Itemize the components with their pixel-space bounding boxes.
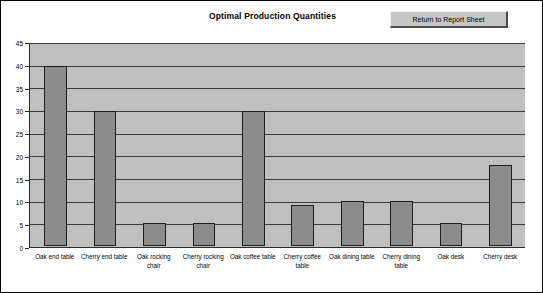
x-axis-label: Cherry desk: [476, 252, 526, 271]
x-axis-label: Oak rocking chair: [129, 252, 179, 271]
y-axis-tick-label: 35: [16, 85, 23, 92]
y-axis-tick: [25, 89, 29, 90]
bar[interactable]: [291, 205, 314, 246]
y-axis-tick-label: 0: [19, 245, 23, 252]
x-axis-label: Cherry dining table: [377, 252, 427, 271]
x-axis-label: Cherry coffee table: [278, 252, 328, 271]
bar[interactable]: [489, 165, 512, 246]
y-axis-tick: [25, 134, 29, 135]
y-axis-tick-label: 45: [16, 40, 23, 47]
y-axis-tick: [25, 202, 29, 203]
bar[interactable]: [440, 223, 463, 246]
y-axis-tick: [25, 180, 29, 181]
x-axis-label: Oak desk: [426, 252, 476, 271]
y-axis-tick-label: 15: [16, 176, 23, 183]
plot-area: [29, 43, 525, 248]
plot-area-wrapper: 051015202530354045: [29, 43, 525, 248]
x-axis-label: Oak dining table: [327, 252, 377, 271]
y-axis-tick: [25, 111, 29, 112]
y-axis-tick-label: 20: [16, 153, 23, 160]
bar[interactable]: [143, 223, 166, 246]
x-axis-label: Cherry rocking chair: [179, 252, 229, 271]
bar-slot: [229, 43, 278, 246]
bar-slot: [476, 43, 525, 246]
y-axis-tick-label: 40: [16, 62, 23, 69]
bar-slot: [179, 43, 228, 246]
y-axis-tick-label: 5: [19, 222, 23, 229]
bar-slot: [80, 43, 129, 246]
y-axis-tick: [25, 66, 29, 67]
bar-slot: [327, 43, 376, 246]
bar-slot: [278, 43, 327, 246]
x-axis-label: Oak coffee table: [228, 252, 278, 271]
x-axis-labels: Oak end tableCherry end tableOak rocking…: [30, 252, 525, 271]
y-axis-tick: [25, 43, 29, 44]
y-axis-tick: [25, 248, 29, 249]
bar[interactable]: [341, 201, 364, 246]
y-axis-tick-label: 30: [16, 108, 23, 115]
chart-container: Optimal Production Quantities Return to …: [0, 0, 543, 293]
bar-slot: [130, 43, 179, 246]
y-axis-tick: [25, 225, 29, 226]
bar[interactable]: [242, 111, 265, 246]
x-axis-label: Oak end table: [30, 252, 80, 271]
return-to-report-sheet-button[interactable]: Return to Report Sheet: [390, 11, 508, 28]
bar-slot: [31, 43, 80, 246]
bar-slot: [377, 43, 426, 246]
bar[interactable]: [390, 201, 413, 246]
bar[interactable]: [193, 223, 216, 246]
y-axis-tick-label: 10: [16, 199, 23, 206]
bars-group: [31, 43, 525, 246]
y-axis-tick-label: 25: [16, 131, 23, 138]
y-axis-tick: [25, 157, 29, 158]
bar[interactable]: [44, 66, 67, 246]
bar-slot: [426, 43, 475, 246]
x-axis-label: Cherry end table: [80, 252, 130, 271]
bar[interactable]: [94, 111, 117, 246]
